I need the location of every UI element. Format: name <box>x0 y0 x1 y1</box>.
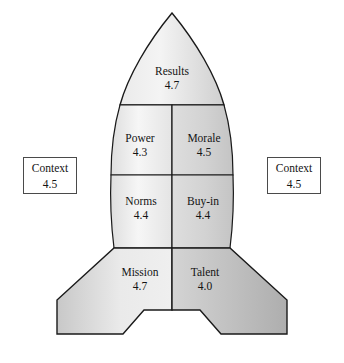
segment-fin-right-label: Talent <box>191 266 220 278</box>
segment-upper-left-label: Power <box>125 132 155 144</box>
context-box-left: Context 4.5 <box>23 157 77 194</box>
segment-fin-left-value: 4.7 <box>133 280 148 292</box>
segment-fin-left-shape <box>57 248 172 334</box>
segment-nose-value: 4.7 <box>165 79 180 91</box>
segment-upper-right-label: Morale <box>187 132 220 144</box>
context-right-label: Context <box>268 161 320 177</box>
segment-lower-right-value: 4.4 <box>196 209 211 221</box>
context-box-right: Context 4.5 <box>267 157 321 194</box>
segment-upper-right-value: 4.5 <box>197 146 212 158</box>
segment-nose-shape <box>120 13 224 105</box>
segment-fin-right-shape <box>172 248 287 334</box>
segment-fin-left-label: Mission <box>121 266 158 278</box>
rocket-diagram: Results 4.7 Power 4.3 Morale 4.5 Norms 4… <box>0 0 344 363</box>
segment-lower-left-label: Norms <box>125 195 157 207</box>
segment-lower-left-value: 4.4 <box>134 209 149 221</box>
segment-lower-right-label: Buy-in <box>187 195 219 208</box>
segment-fin-right-value: 4.0 <box>198 280 213 292</box>
context-right-value: 4.5 <box>268 177 320 193</box>
segment-nose-label: Results <box>155 65 189 77</box>
context-left-label: Context <box>24 161 76 177</box>
segment-upper-left-value: 4.3 <box>133 146 148 158</box>
context-left-value: 4.5 <box>24 177 76 193</box>
